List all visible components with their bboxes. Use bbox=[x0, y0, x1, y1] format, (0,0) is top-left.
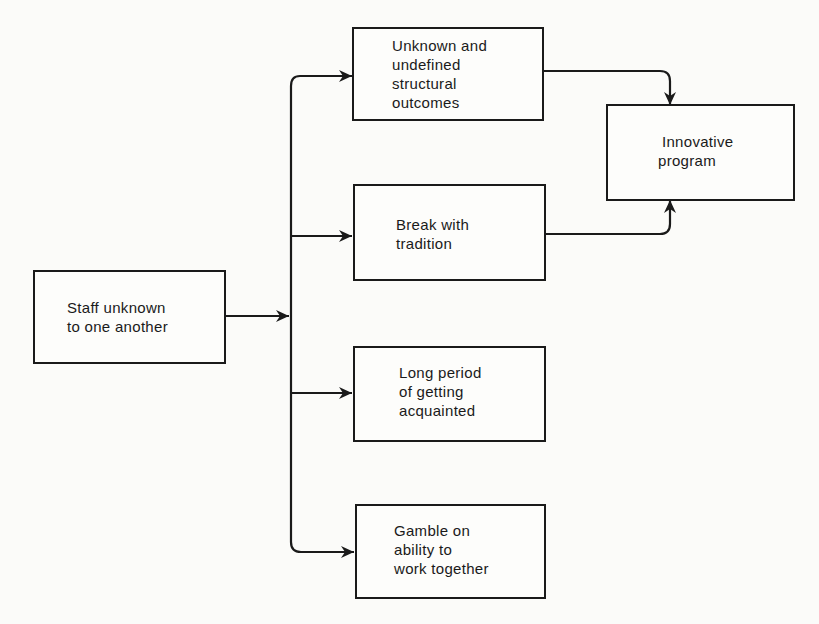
node-text: Innovative bbox=[658, 132, 733, 151]
edge-unknown-to-innovative bbox=[543, 71, 670, 105]
node-text: structural bbox=[392, 74, 487, 93]
node-staff-unknown: Staff unknown to one another bbox=[33, 270, 226, 364]
node-unknown-outcomes: Unknown and undefined structural outcome… bbox=[352, 27, 544, 121]
node-text: ability to bbox=[394, 540, 489, 559]
node-text: Long period bbox=[399, 363, 482, 382]
node-long-period: Long period of getting acquainted bbox=[353, 346, 546, 442]
node-text: of getting bbox=[399, 382, 482, 401]
edge-break-to-innovative bbox=[545, 200, 670, 234]
node-text: acquainted bbox=[399, 401, 482, 420]
node-text: tradition bbox=[396, 234, 469, 253]
node-break-tradition: Break with tradition bbox=[353, 184, 546, 281]
node-text: undefined bbox=[392, 55, 487, 74]
node-text: Unknown and bbox=[392, 36, 487, 55]
node-text: to one another bbox=[67, 317, 168, 336]
node-text: outcomes bbox=[392, 93, 487, 112]
node-text: Gamble on bbox=[394, 521, 489, 540]
node-text: program bbox=[658, 151, 733, 170]
node-gamble: Gamble on ability to work together bbox=[355, 504, 546, 599]
node-text: Staff unknown bbox=[67, 298, 168, 317]
node-text: Break with bbox=[396, 215, 469, 234]
node-text: work together bbox=[394, 559, 489, 578]
trunk-line bbox=[291, 76, 354, 552]
node-innovative-program: Innovative program bbox=[606, 104, 795, 201]
